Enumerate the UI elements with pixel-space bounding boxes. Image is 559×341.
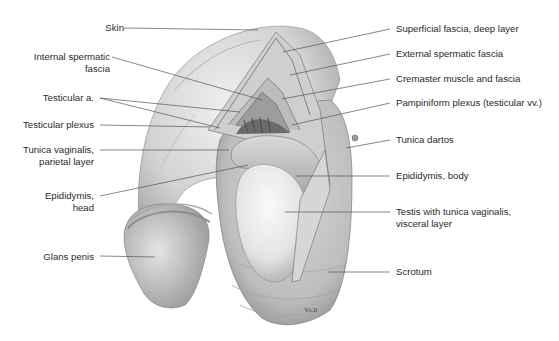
label-line: Superficial fascia, deep layer bbox=[396, 23, 519, 35]
anatomy-figure: Vo.ll Skin Internal spermatic fascia bbox=[0, 0, 559, 341]
label-line: Glans penis bbox=[43, 251, 94, 263]
label-testicular-plexus: Testicular plexus bbox=[23, 119, 94, 131]
label-line: Testis with tunica vaginalis, bbox=[396, 206, 511, 218]
label-epididymis-body: Epididymis, body bbox=[396, 170, 469, 182]
label-epididymis-head: Epididymis, head bbox=[45, 190, 94, 213]
label-line: Pampiniform plexus (testicular vv.) bbox=[396, 97, 542, 109]
label-line: Skin bbox=[105, 22, 124, 34]
label-line: Epididymis, body bbox=[396, 170, 469, 182]
label-line: Tunica vaginalis, bbox=[23, 144, 94, 156]
label-line: Tunica dartos bbox=[396, 134, 454, 146]
label-line: External spermatic fascia bbox=[396, 48, 503, 60]
label-line: visceral layer bbox=[396, 218, 511, 230]
label-pampiniform-plexus: Pampiniform plexus (testicular vv.) bbox=[396, 97, 542, 109]
label-line: Epididymis, bbox=[45, 190, 94, 202]
label-line: fascia bbox=[34, 63, 110, 75]
label-testicular-artery: Testicular a. bbox=[43, 92, 94, 104]
label-line: Testicular a. bbox=[43, 92, 94, 104]
label-line: Cremaster muscle and fascia bbox=[396, 73, 520, 85]
label-tunica-vaginalis-parietal: Tunica vaginalis, parietal layer bbox=[23, 144, 94, 167]
label-line: Scrotum bbox=[396, 266, 432, 278]
tunica-dartos-pin bbox=[352, 135, 358, 141]
label-testis: Testis with tunica vaginalis, visceral l… bbox=[396, 206, 511, 229]
label-cremaster-muscle: Cremaster muscle and fascia bbox=[396, 73, 520, 85]
label-internal-spermatic-fascia: Internal spermatic fascia bbox=[34, 51, 110, 74]
label-line: head bbox=[45, 202, 94, 214]
label-line: Testicular plexus bbox=[23, 119, 94, 131]
label-line: parietal layer bbox=[23, 156, 94, 168]
label-superficial-fascia-deep-layer: Superficial fascia, deep layer bbox=[396, 23, 519, 35]
glans-shape bbox=[124, 204, 212, 308]
label-skin: Skin bbox=[105, 22, 124, 34]
label-external-spermatic-fascia: External spermatic fascia bbox=[396, 48, 503, 60]
label-scrotum: Scrotum bbox=[396, 266, 432, 278]
artist-signature: Vo.ll bbox=[304, 306, 317, 314]
label-tunica-dartos: Tunica dartos bbox=[396, 134, 454, 146]
label-glans-penis: Glans penis bbox=[43, 251, 94, 263]
label-line: Internal spermatic bbox=[34, 51, 110, 63]
